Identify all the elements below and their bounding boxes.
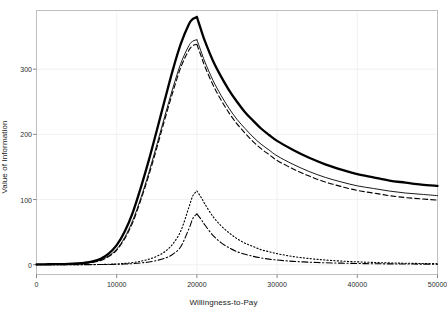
line-chart-canvas xyxy=(0,0,447,313)
x-tick-label: 0 xyxy=(35,281,39,288)
x-tick-label: 50000 xyxy=(428,281,447,288)
y-tick-label: 0 xyxy=(14,261,32,268)
x-tick-label: 10000 xyxy=(107,281,126,288)
x-axis-title: Willingness-to-Pay xyxy=(0,298,447,307)
series-line-evppi-dashdot xyxy=(37,214,438,265)
y-axis-title: Value of Information xyxy=(0,107,12,207)
series-line-evppi-thin-solid xyxy=(37,40,438,265)
y-tick-label: 200 xyxy=(14,131,32,138)
x-tick-label: 20000 xyxy=(187,281,206,288)
series-line-evpi-total xyxy=(37,17,438,264)
series-line-evppi-dotted xyxy=(37,191,438,265)
series-line-evppi-dashed xyxy=(37,44,438,264)
data-series-group xyxy=(37,17,438,265)
x-tick-label: 40000 xyxy=(348,281,367,288)
y-tick-label: 100 xyxy=(14,196,32,203)
x-tick-label: 30000 xyxy=(267,281,286,288)
plot-panel-border xyxy=(37,11,438,275)
y-tick-label: 300 xyxy=(14,66,32,73)
grid-lines xyxy=(37,11,438,275)
chart-figure: 01000020000300004000050000 0100200300 Wi… xyxy=(0,0,447,313)
